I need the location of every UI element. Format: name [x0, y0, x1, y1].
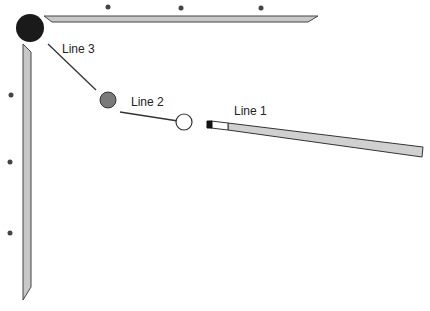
- object-ball: [100, 92, 116, 108]
- cue-stick: [207, 121, 423, 157]
- label-line-3: Line 3: [62, 42, 95, 56]
- label-line-1: Line 1: [234, 104, 267, 118]
- left-rail: [23, 44, 31, 300]
- diamond-marker: [106, 5, 111, 10]
- diamond-marker: [179, 6, 184, 11]
- diamond-marker: [259, 6, 264, 11]
- label-line-2: Line 2: [131, 95, 164, 109]
- diamond-marker: [8, 231, 13, 236]
- line-2: [120, 112, 178, 121]
- pool-diagram: Line 3 Line 2 Line 1: [0, 0, 430, 311]
- cue-ball: [176, 114, 192, 130]
- cue-ferrule: [211, 121, 228, 130]
- cue-tip: [207, 121, 212, 128]
- top-rail: [44, 16, 318, 22]
- cue-shaft: [228, 123, 423, 157]
- corner-pocket: [16, 14, 44, 42]
- diamond-marker: [8, 160, 13, 165]
- diamond-marker: [9, 93, 14, 98]
